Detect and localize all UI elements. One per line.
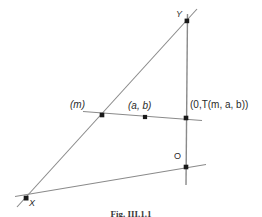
point-marker-m — [100, 113, 105, 118]
point-marker-ab — [143, 115, 147, 119]
diagonal-line-x-to-y — [17, 9, 197, 207]
point-marker-t — [184, 116, 189, 121]
geometry-figure: (m) (a, b) (0,T(m, a, b)) Y O X Fig. III… — [0, 0, 262, 217]
point-marker-o — [184, 165, 189, 170]
point-marker-x — [24, 196, 29, 201]
figure-caption: Fig. III.1.1 — [0, 209, 262, 217]
label-point-m: (m) — [70, 100, 85, 110]
point-marker-y — [185, 19, 190, 24]
label-point-t: (0,T(m, a, b)) — [190, 100, 248, 110]
line-through-x-and-o — [15, 165, 206, 197]
label-vertex-y: Y — [176, 10, 182, 19]
label-point-ab: (a, b) — [128, 101, 151, 111]
vertical-axis-line — [186, 14, 188, 185]
label-origin-o: O — [174, 152, 181, 161]
label-vertex-x: X — [29, 199, 35, 208]
